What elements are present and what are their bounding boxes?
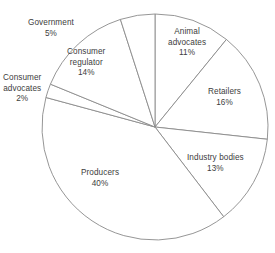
pie-label-value: 11% [168,48,206,59]
pie-label-consumer-regulator: Consumerregulator14% [67,47,105,79]
pie-label-value: 14% [67,68,105,79]
pie-label-name: advocates [168,38,206,49]
pie-label-value: 5% [28,29,74,40]
pie-label-name: Producers [81,168,119,179]
pie-label-producers: Producers40% [81,168,119,189]
pie-label-government: Government5% [28,18,74,39]
pie-label-name: advocates [3,84,41,95]
pie-chart: Animaladvocates11%Retailers16%Industry b… [0,0,275,253]
pie-label-name: Government [28,18,74,29]
pie-label-value: 16% [208,98,241,109]
pie-label-industry-bodies: Industry bodies13% [187,153,244,174]
pie-label-value: 2% [3,94,41,105]
pie-label-value: 40% [81,179,119,190]
pie-label-consumer-advocates: Consumeradvocates2% [3,73,41,105]
pie-label-name: regulator [67,58,105,69]
pie-label-name: Consumer [67,47,105,58]
pie-label-name: Animal [168,27,206,38]
pie-label-name: Retailers [208,87,241,98]
pie-label-name: Consumer [3,73,41,84]
pie-label-value: 13% [187,164,244,175]
pie-label-name: Industry bodies [187,153,244,164]
pie-label-animal-advocates: Animaladvocates11% [168,27,206,59]
pie-label-retailers: Retailers16% [208,87,241,108]
